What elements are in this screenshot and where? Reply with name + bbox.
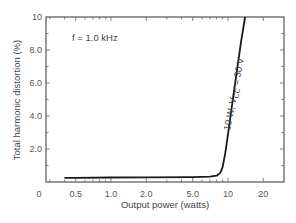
- y-tick-label: 10: [32, 12, 42, 22]
- x-tick-label: 2.0: [140, 189, 153, 199]
- curve-annotation-main: 10 W, V: [221, 96, 238, 131]
- y-tick-label: 2.0: [29, 144, 42, 154]
- frequency-annotation: f = 1.0 kHz: [72, 32, 118, 43]
- x-tick-label-zero: 0: [36, 189, 41, 199]
- x-tick-label: 5.0: [187, 189, 200, 199]
- x-tick-label: 20: [258, 189, 268, 199]
- x-tick-label: 1.0: [105, 189, 118, 199]
- x-tick-label: 0.5: [70, 189, 83, 199]
- curve-annotation-tail: = 30 V: [229, 56, 246, 89]
- y-tick-label: 6.0: [29, 78, 42, 88]
- y-tick-label: 4.0: [29, 111, 42, 121]
- y-tick-label: 8.0: [29, 45, 42, 55]
- thd-vs-power-chart: 2.04.06.08.01000.51.02.05.01020 f = 1.0 …: [0, 0, 296, 223]
- y-axis-title: Total harmonic distortion (%): [11, 40, 22, 160]
- x-axis-title: Output power (watts): [121, 199, 209, 210]
- x-tick-label: 10: [223, 189, 233, 199]
- curve-annotation: 10 W, VCC = 30 V: [221, 56, 247, 131]
